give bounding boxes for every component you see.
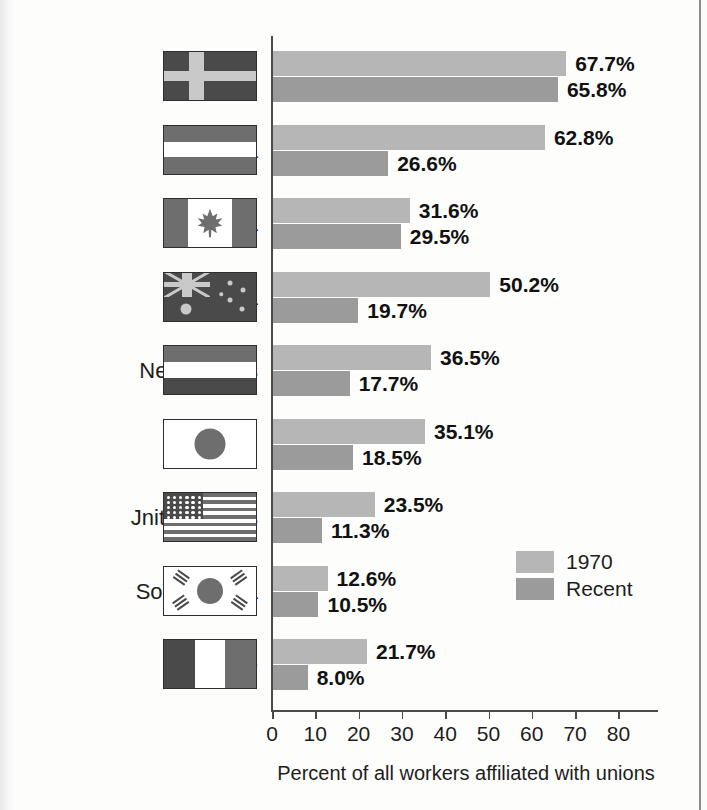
flag-star: [185, 501, 188, 504]
value-label-recent-united-states: 11.3%: [331, 519, 389, 543]
flag-maple-leaf-icon: [193, 206, 227, 240]
flag-japan: [163, 419, 257, 469]
bar-recent-austria: [273, 151, 388, 176]
flag-star: [185, 511, 188, 514]
value-label-1970-australia: 50.2%: [499, 273, 559, 297]
chart-row-japan: Japan35.1%18.5%: [0, 419, 707, 470]
flag-star: [198, 516, 201, 519]
value-label-1970-austria: 62.8%: [554, 126, 614, 150]
flag-star: [191, 506, 194, 509]
x-tick-70: [575, 710, 577, 719]
flag-star-4: [240, 306, 245, 311]
flag-australia-canvas: [164, 273, 256, 321]
bar-recent-canada: [273, 224, 401, 249]
value-label-1970-france: 21.7%: [376, 640, 436, 664]
flag-band-middle: [164, 142, 256, 157]
value-label-recent-australia: 19.7%: [367, 299, 427, 323]
flag-star: [173, 506, 176, 509]
flag-sweden: [163, 51, 257, 101]
bar-1970-france: [273, 639, 367, 664]
x-tick-label-30: 30: [390, 722, 413, 746]
flag-cross-horizontal: [164, 71, 256, 81]
legend-label-recent: Recent: [566, 577, 633, 601]
chart-row-france: France21.7%8.0%: [0, 639, 707, 690]
x-tick-50: [489, 710, 491, 719]
value-label-1970-united-states: 23.5%: [384, 493, 444, 517]
flag-star: [179, 501, 182, 504]
chart-row-sweden: Sweden67.7%65.8%: [0, 51, 707, 102]
flag-austria-canvas: [164, 126, 256, 174]
legend-swatch-recent: [516, 578, 554, 600]
union-membership-bar-chart: 01020304050607080 Sweden67.7%65.8%Austri…: [0, 0, 707, 810]
flag-stripe-8: [164, 523, 256, 527]
chart-row-austria: Austria62.8%26.6%: [0, 125, 707, 176]
bar-recent-south-korea: [273, 592, 318, 617]
bar-1970-japan: [273, 419, 425, 444]
x-tick-20: [359, 710, 361, 719]
flag-star: [167, 516, 170, 519]
x-axis-title: Percent of all workers affiliated with u…: [271, 762, 661, 785]
flag-united-states-canvas: [164, 493, 256, 541]
bar-recent-united-states: [273, 518, 322, 543]
bar-recent-australia: [273, 298, 358, 323]
flag-band-bottom: [164, 157, 256, 173]
chart-row-united-states: Jnited States23.5%11.3%: [0, 492, 707, 543]
flag-netherlands-canvas: [164, 346, 256, 394]
flag-band-middle: [164, 362, 256, 377]
flag-star-canton: [164, 493, 203, 519]
flag-star-1: [228, 281, 233, 286]
flag-band-right: [225, 640, 256, 688]
value-label-recent-austria: 26.6%: [397, 152, 457, 176]
bar-1970-australia: [273, 272, 490, 297]
bar-recent-netherlands: [273, 371, 350, 396]
legend-label-1970: 1970: [566, 550, 613, 574]
x-tick-label-60: 60: [520, 722, 543, 746]
value-label-recent-france: 8.0%: [317, 666, 365, 690]
value-label-recent-sweden: 65.8%: [567, 78, 627, 102]
flag-star: [191, 496, 194, 499]
chart-legend: 1970 Recent: [516, 548, 633, 602]
bar-recent-sweden: [273, 77, 558, 102]
flag-star: [185, 516, 188, 519]
flag-band-left: [164, 640, 195, 688]
bar-recent-japan: [273, 445, 353, 470]
bar-recent-france: [273, 665, 308, 690]
x-tick-label-10: 10: [304, 722, 327, 746]
x-tick-label-70: 70: [563, 722, 586, 746]
flag-stripe-12: [164, 537, 256, 541]
flag-star: [167, 501, 170, 504]
bar-1970-sweden: [273, 51, 566, 76]
x-tick-label-50: 50: [477, 722, 500, 746]
x-tick-40: [445, 710, 447, 719]
chart-row-australia: Australia50.2%19.7%: [0, 272, 707, 323]
value-label-1970-sweden: 67.7%: [575, 52, 635, 76]
flag-star: [179, 506, 182, 509]
flag-star: [173, 496, 176, 499]
legend-swatch-1970: [516, 551, 554, 573]
bar-1970-netherlands: [273, 345, 431, 370]
value-label-1970-netherlands: 36.5%: [440, 346, 500, 370]
flag-star: [167, 496, 170, 499]
flag-band-top: [164, 346, 256, 362]
flag-netherlands: [163, 345, 257, 395]
flag-sweden-canvas: [164, 52, 256, 100]
value-label-1970-south-korea: 12.6%: [337, 567, 397, 591]
x-tick-10: [315, 710, 317, 719]
x-tick-label-0: 0: [266, 722, 278, 746]
flag-band-left: [164, 199, 188, 247]
flag-stripe-10: [164, 530, 256, 534]
x-tick-label-80: 80: [607, 722, 630, 746]
flag-star: [185, 506, 188, 509]
flag-star: [191, 516, 194, 519]
flag-canada: [163, 198, 257, 248]
value-label-recent-canada: 29.5%: [410, 225, 470, 249]
flag-star: [191, 511, 194, 514]
bar-1970-canada: [273, 198, 410, 223]
flag-star: [167, 511, 170, 514]
x-tick-0: [272, 710, 274, 719]
flag-cross-vertical: [189, 52, 205, 100]
flag-star-3: [228, 297, 233, 302]
flag-france-canvas: [164, 640, 256, 688]
legend-item-recent: Recent: [516, 575, 633, 602]
flag-star: [191, 501, 194, 504]
